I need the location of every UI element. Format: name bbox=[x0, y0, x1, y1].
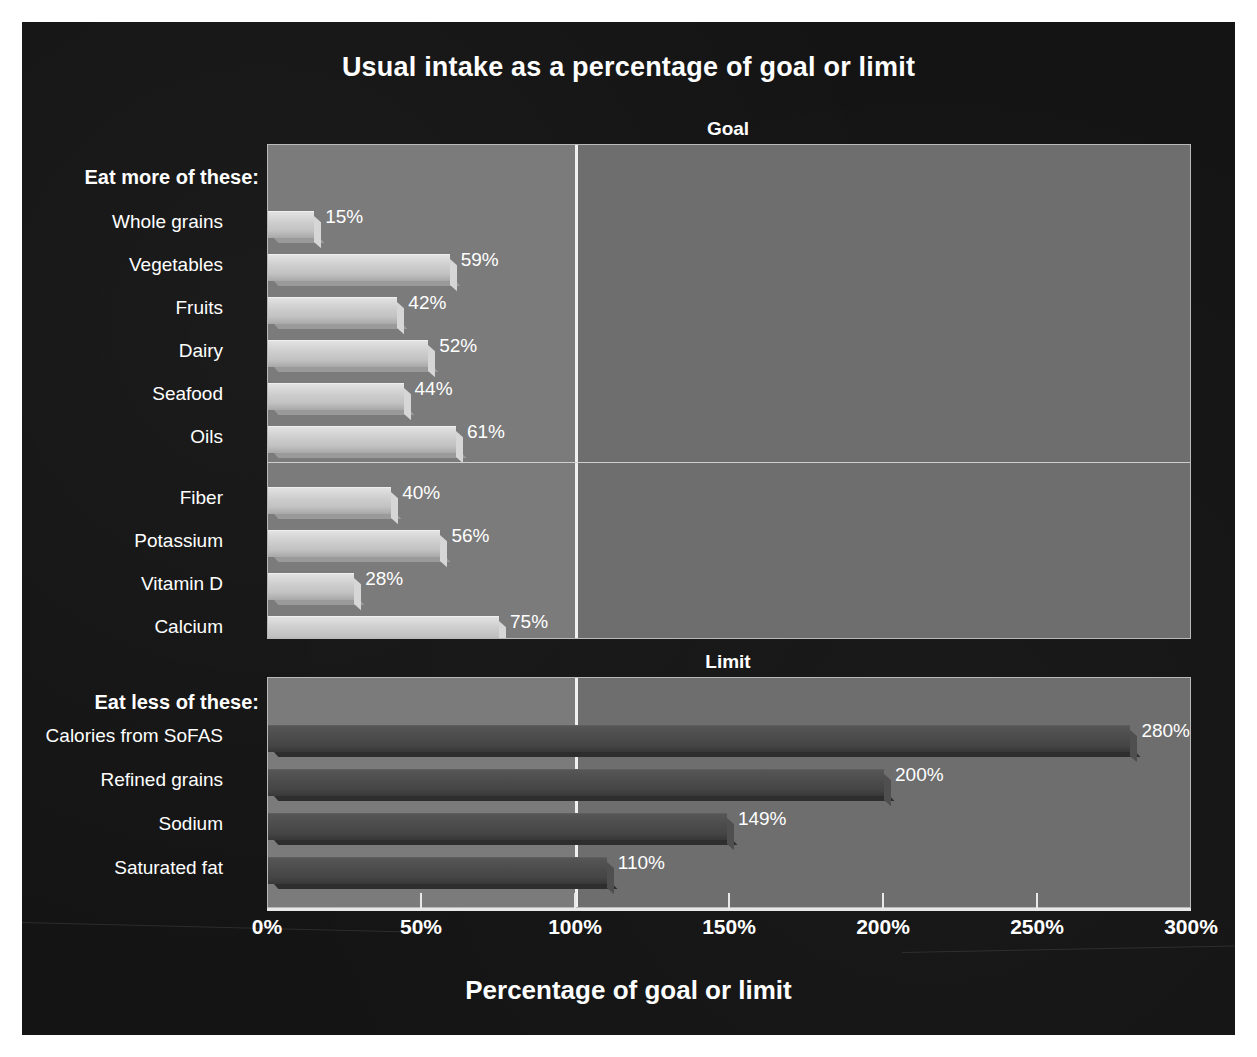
category-label: Refined grains bbox=[100, 769, 223, 791]
x-axis-title: Percentage of goal or limit bbox=[22, 975, 1235, 1006]
bar-vegetables bbox=[268, 254, 450, 280]
bar-cap bbox=[456, 431, 463, 463]
x-axis-tick-label: 300% bbox=[1164, 915, 1218, 939]
bar-cap bbox=[727, 818, 734, 850]
category-label: Vitamin D bbox=[141, 573, 223, 595]
value-label: 59% bbox=[461, 249, 499, 271]
bar-fruits bbox=[268, 297, 397, 323]
value-label: 52% bbox=[439, 335, 477, 357]
slide-canvas: Usual intake as a percentage of goal or … bbox=[22, 22, 1235, 1035]
goal-reference-line bbox=[575, 145, 578, 638]
x-axis-tick-label: 250% bbox=[1010, 915, 1064, 939]
eat-less-heading: Eat less of these: bbox=[32, 691, 259, 714]
bar-face bbox=[268, 487, 391, 514]
value-label: 42% bbox=[408, 292, 446, 314]
value-label: 200% bbox=[895, 764, 944, 786]
category-label: Calories from SoFAS bbox=[46, 725, 223, 747]
value-label: 75% bbox=[510, 611, 548, 633]
bar-fiber bbox=[268, 487, 391, 513]
value-label: 149% bbox=[738, 808, 787, 830]
photo-artifact-line bbox=[22, 922, 422, 933]
bar-face bbox=[268, 211, 314, 238]
goal-group-separator bbox=[268, 462, 1190, 463]
photo-artifact-line bbox=[902, 945, 1235, 953]
x-axis-tick-label: 100% bbox=[548, 915, 602, 939]
bar-sodium bbox=[268, 813, 727, 839]
category-label: Fiber bbox=[180, 487, 223, 509]
value-label: 15% bbox=[325, 206, 363, 228]
x-axis-tick bbox=[882, 893, 884, 908]
bar-refined-grains bbox=[268, 769, 884, 795]
bar-calcium bbox=[268, 616, 499, 639]
category-label: Calcium bbox=[154, 616, 223, 638]
x-axis-tick-label: 150% bbox=[702, 915, 756, 939]
category-label: Vegetables bbox=[129, 254, 223, 276]
bar-cap bbox=[450, 259, 457, 291]
category-label: Oils bbox=[190, 426, 223, 448]
bar-face bbox=[268, 340, 428, 367]
bar-cap bbox=[314, 216, 321, 248]
goal-plot-area bbox=[267, 144, 1191, 639]
bar-face bbox=[268, 530, 440, 557]
x-axis-tick bbox=[574, 893, 576, 908]
category-label: Whole grains bbox=[112, 211, 223, 233]
x-axis-tick bbox=[1036, 893, 1038, 908]
bar-face bbox=[268, 769, 884, 796]
category-label: Sodium bbox=[159, 813, 223, 835]
bar-vitamin-d bbox=[268, 573, 354, 599]
category-label: Saturated fat bbox=[114, 857, 223, 879]
x-axis-line bbox=[267, 908, 1191, 911]
category-label: Fruits bbox=[176, 297, 224, 319]
bar-calories-from-sofas bbox=[268, 725, 1130, 751]
goal-panel-caption: Goal bbox=[266, 118, 1190, 140]
chart-title: Usual intake as a percentage of goal or … bbox=[22, 52, 1235, 83]
limit-plot-area bbox=[267, 677, 1191, 908]
x-axis-tick bbox=[728, 893, 730, 908]
limit-panel-caption: Limit bbox=[266, 651, 1190, 673]
value-label: 61% bbox=[467, 421, 505, 443]
bar-cap bbox=[428, 345, 435, 377]
value-label: 40% bbox=[402, 482, 440, 504]
category-label: Dairy bbox=[179, 340, 223, 362]
category-label: Seafood bbox=[152, 383, 223, 405]
bar-face bbox=[268, 426, 456, 453]
bar-face bbox=[268, 254, 450, 281]
bar-face bbox=[268, 297, 397, 324]
value-label: 28% bbox=[365, 568, 403, 590]
bar-face bbox=[268, 383, 404, 410]
bar-face bbox=[268, 725, 1130, 752]
category-label: Potassium bbox=[134, 530, 223, 552]
eat-more-heading: Eat more of these: bbox=[52, 166, 259, 189]
bar-seafood bbox=[268, 383, 404, 409]
bar-cap bbox=[1130, 730, 1137, 762]
bar-saturated-fat bbox=[268, 857, 607, 883]
bar-face bbox=[268, 857, 607, 884]
bar-face bbox=[268, 616, 499, 639]
bar-cap bbox=[607, 862, 614, 894]
bar-potassium bbox=[268, 530, 440, 556]
value-label: 110% bbox=[618, 852, 665, 874]
bar-face bbox=[268, 813, 727, 840]
bar-cap bbox=[354, 578, 361, 610]
bar-cap bbox=[440, 535, 447, 567]
bar-whole-grains bbox=[268, 211, 314, 237]
bar-cap bbox=[397, 302, 404, 334]
value-label: 44% bbox=[415, 378, 453, 400]
bar-cap bbox=[884, 774, 891, 806]
bar-dairy bbox=[268, 340, 428, 366]
x-axis-tick-label: 0% bbox=[252, 915, 282, 939]
x-axis-tick-label: 200% bbox=[856, 915, 910, 939]
value-label: 56% bbox=[451, 525, 489, 547]
x-axis-tick-label: 50% bbox=[400, 915, 442, 939]
bar-cap bbox=[391, 492, 398, 524]
bar-face bbox=[268, 573, 354, 600]
bar-oils bbox=[268, 426, 456, 452]
x-axis-tick bbox=[420, 893, 422, 908]
value-label: 280% bbox=[1141, 720, 1190, 742]
chart-page: Usual intake as a percentage of goal or … bbox=[0, 0, 1257, 1057]
